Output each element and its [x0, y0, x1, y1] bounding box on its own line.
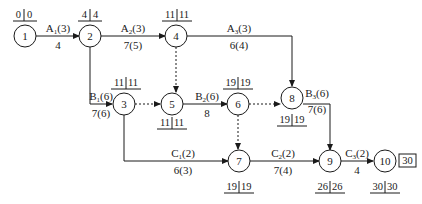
node-2: 2 [79, 25, 101, 47]
svg-text:4: 4 [55, 39, 61, 51]
svg-text:11: 11 [179, 9, 189, 20]
svg-text:9: 9 [327, 155, 333, 167]
activity-b3-label: B3(6) 7(6) [305, 87, 329, 116]
svg-text:10: 10 [380, 155, 392, 167]
node-2-times: 4 4 [78, 9, 102, 21]
svg-text:11: 11 [114, 77, 124, 88]
svg-text:11: 11 [128, 77, 138, 88]
activity-b1-label: B1(6) 7(6) [89, 90, 113, 120]
node-7-times: 19 19 [224, 181, 254, 193]
node-3-times: 11 11 [111, 77, 141, 89]
node-7: 7 [228, 150, 250, 172]
svg-text:26: 26 [318, 181, 329, 192]
activity-c2-label: C2(2) 7(4) [271, 147, 295, 177]
svg-text:30: 30 [402, 155, 413, 166]
svg-text:19: 19 [227, 181, 238, 192]
svg-text:6(3): 6(3) [174, 164, 193, 177]
svg-text:A1(3): A1(3) [46, 22, 71, 36]
svg-text:4: 4 [82, 9, 88, 20]
node-4: 4 [165, 25, 187, 47]
svg-text:11: 11 [174, 117, 184, 128]
svg-text:7(4): 7(4) [274, 164, 293, 177]
svg-text:1: 1 [22, 30, 28, 42]
svg-text:C2(2): C2(2) [271, 147, 295, 161]
svg-text:A2(3): A2(3) [121, 22, 146, 36]
node-3: 3 [113, 93, 135, 115]
node-5: 5 [161, 93, 183, 115]
svg-text:4: 4 [93, 9, 99, 20]
svg-text:B1(6): B1(6) [89, 90, 113, 104]
svg-text:19: 19 [294, 114, 305, 125]
svg-text:4: 4 [173, 30, 179, 42]
svg-text:C3(2): C3(2) [345, 147, 369, 161]
svg-text:19: 19 [241, 181, 252, 192]
activity-a3-label: A3(3) 6(4) [227, 22, 252, 52]
svg-text:7: 7 [236, 155, 242, 167]
svg-text:30: 30 [387, 181, 398, 192]
node-5-times: 11 11 [157, 117, 187, 129]
svg-text:26: 26 [332, 181, 343, 192]
svg-text:19: 19 [240, 77, 251, 88]
node-4-times: 11 11 [162, 9, 192, 21]
node-6-times: 19 19 [223, 77, 253, 89]
svg-text:11: 11 [165, 9, 175, 20]
svg-text:0: 0 [16, 9, 21, 20]
svg-text:A3(3): A3(3) [227, 22, 252, 36]
node-1-times: 0 0 [13, 9, 37, 21]
node-9: 9 [319, 150, 341, 172]
network-diagram: 1 2 3 4 5 6 7 8 9 10 0 0 [0, 0, 422, 204]
node-10: 10 [374, 150, 396, 172]
total-duration-box: 30 [399, 154, 416, 167]
svg-text:4: 4 [354, 164, 360, 176]
activity-a2-label: A2(3) 7(5) [121, 22, 146, 52]
svg-text:B2(6): B2(6) [195, 90, 219, 104]
svg-text:3: 3 [121, 98, 127, 110]
svg-text:5: 5 [169, 98, 175, 110]
node-10-times: 30 30 [370, 181, 400, 193]
svg-text:6: 6 [235, 98, 241, 110]
svg-text:19: 19 [226, 77, 237, 88]
svg-text:6(4): 6(4) [230, 39, 249, 52]
node-9-times: 26 26 [315, 181, 345, 193]
svg-text:7(6): 7(6) [92, 107, 111, 120]
svg-text:C1(2): C1(2) [171, 147, 195, 161]
node-8: 8 [281, 87, 303, 109]
svg-text:B3(6): B3(6) [305, 87, 329, 101]
svg-text:7(5): 7(5) [124, 39, 143, 52]
node-8-times: 19 19 [277, 114, 307, 126]
svg-text:11: 11 [160, 117, 170, 128]
node-1: 1 [14, 25, 36, 47]
svg-text:7(6): 7(6) [308, 103, 327, 116]
activity-c1-label: C1(2) 6(3) [171, 147, 195, 177]
svg-text:2: 2 [87, 30, 93, 42]
svg-text:0: 0 [27, 9, 32, 20]
svg-text:8: 8 [289, 92, 295, 104]
node-6: 6 [227, 93, 249, 115]
svg-text:8: 8 [204, 107, 210, 119]
svg-text:30: 30 [373, 181, 384, 192]
svg-text:19: 19 [280, 114, 291, 125]
